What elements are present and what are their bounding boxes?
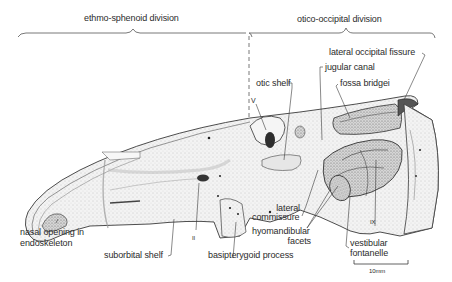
otico-occipital-division-label: otico-occipital division	[297, 14, 382, 24]
vestibular-fontanelle-label-line1: vestibular	[350, 238, 388, 248]
nasal-opening-label-line2: endoskeleton	[20, 238, 72, 248]
basipterygoid-process-label: basipterygoid process	[208, 250, 293, 260]
nerve-v-label: V	[251, 96, 256, 106]
hyomandibular-facets-label-line2: facets	[252, 236, 311, 246]
suborbital-shelf-label: suborbital shelf	[104, 250, 163, 260]
nerve-ix-label: IX	[370, 217, 375, 227]
ethmo-sphenoid-division-label: ethmo-sphenoid division	[84, 13, 179, 23]
skull-body	[25, 96, 438, 242]
otic-shelf-label: otic shelf	[256, 78, 291, 88]
hyomandibular-facets-label-line1: hyomandibular	[252, 226, 310, 236]
nerve-ii-label: II	[192, 233, 195, 243]
lateral-occipital-fissure-label: lateral occipital fissure	[329, 47, 415, 57]
nasal-opening-label-line1: nasal opening in	[20, 227, 84, 237]
lateral-commissure-label-line2: commissure	[252, 212, 300, 222]
vestibular-fontanelle-label-line2: fontanelle	[350, 248, 388, 258]
scale-bar-label: 10mm	[369, 266, 385, 276]
fossa-bridgei-label: fossa bridgei	[340, 78, 390, 88]
jugular-canal-label: jugular canal	[325, 62, 375, 72]
skull-diagram: ethmo-sphenoid division otico-occipital …	[0, 0, 452, 282]
